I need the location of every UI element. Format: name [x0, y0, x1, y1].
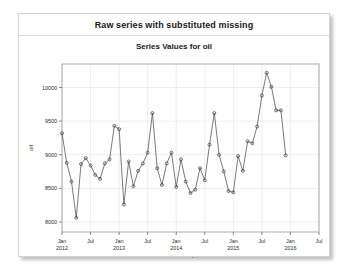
- timeseries-plot: 800085009000950010000Jan2012JulJan2013Ju…: [19, 56, 331, 258]
- x-tick-label: Jan: [115, 238, 124, 244]
- card-title-band: Raw series with substituted missing: [19, 14, 329, 36]
- x-tick-label: Jul: [316, 238, 323, 244]
- y-tick-label: 8000: [45, 219, 57, 225]
- y-tick-label: 8500: [45, 185, 57, 191]
- x-tick-label: Jul: [258, 238, 265, 244]
- page-title: Raw series with substituted missing: [95, 20, 254, 30]
- x-tick-label: Jan: [172, 238, 181, 244]
- x-tick-label-year: 2015: [227, 245, 239, 251]
- x-tick-label-year: 2014: [170, 245, 182, 251]
- y-tick-label: 9000: [45, 152, 57, 158]
- y-axis-label: oil: [28, 145, 34, 151]
- plot-area: 800085009000950010000Jan2012JulJan2013Ju…: [19, 56, 329, 256]
- card-subtitle-band: Series Values for oil: [19, 36, 329, 56]
- panel-border: [62, 64, 319, 232]
- chart-subtitle: Series Values for oil: [136, 42, 212, 51]
- x-tick-label: Jan: [286, 238, 295, 244]
- x-tick-label: Jan: [58, 238, 67, 244]
- x-tick-label: Jul: [87, 238, 94, 244]
- chart-card: Raw series with substituted missing Seri…: [18, 13, 330, 257]
- x-tick-label: Jul: [201, 238, 208, 244]
- x-tick-label-year: 2013: [113, 245, 125, 251]
- x-tick-label-year: 2016: [284, 245, 296, 251]
- screenshot-root: Raw series with substituted missing Seri…: [0, 0, 347, 279]
- y-tick-label: 9500: [45, 118, 57, 124]
- x-tick-label-year: 2012: [56, 245, 68, 251]
- x-tick-label: Jul: [144, 238, 151, 244]
- series-line-oil: [62, 73, 286, 218]
- y-tick-label: 10000: [42, 85, 57, 91]
- x-tick-label: Jan: [229, 238, 238, 244]
- x-axis-label: nowdate: [179, 256, 202, 258]
